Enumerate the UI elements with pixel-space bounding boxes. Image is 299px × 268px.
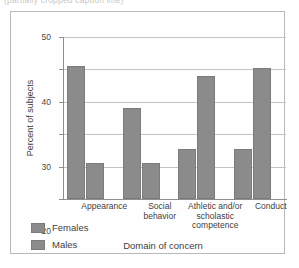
legend-item: Females [31, 220, 88, 235]
bar [253, 68, 271, 199]
bar [67, 66, 85, 199]
legend-swatch [31, 223, 45, 233]
gridline [64, 199, 286, 200]
y-axis-title: Percent of subjects [25, 80, 35, 157]
legend-label: Females [52, 222, 88, 233]
clipped-caption-strip: (partially cropped caption line) [0, 0, 299, 9]
chart-legend: FemalesMales [31, 220, 88, 254]
bar [86, 163, 104, 199]
y-tick-label: 40 [42, 97, 51, 107]
y-tick-mark: 10 [59, 167, 63, 168]
bar [234, 149, 252, 199]
y-tick-mark: 0 [59, 199, 63, 200]
y-tick-mark: 50 [59, 37, 63, 38]
y-tick-mark: 20 [59, 134, 63, 135]
bar [197, 76, 215, 199]
y-tick-mark: 30 [59, 102, 63, 103]
gridline [64, 37, 286, 38]
legend-swatch [31, 240, 45, 250]
legend-label: Males [52, 239, 77, 250]
clipped-caption-text: (partially cropped caption line) [4, 0, 124, 5]
legend-item: Males [31, 237, 88, 252]
y-tick-label: 30 [42, 162, 51, 172]
bar [178, 149, 196, 199]
x-axis-title: Domain of concern [123, 240, 203, 251]
figure-frame: Percent of subjects 01020304050 Appearan… [10, 11, 285, 254]
bar [142, 163, 160, 199]
y-tick-mark: 40 [59, 69, 63, 70]
y-tick-label: 50 [42, 32, 51, 42]
plot-area: 01020304050 [64, 37, 286, 199]
bar [123, 108, 141, 199]
x-category-label: Conduct [226, 202, 299, 212]
